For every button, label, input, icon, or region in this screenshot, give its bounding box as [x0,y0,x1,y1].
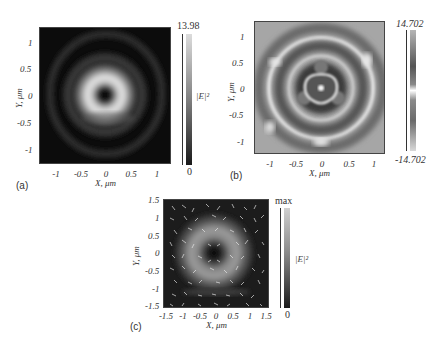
xtick-c-5: 1 [248,312,253,321]
panel-label-a: (a) [16,181,28,191]
ytick-c-5: -1 [152,285,160,294]
xtick-c-4: 0.5 [227,312,238,321]
xtick-a-1: -0.5 [74,170,88,179]
ytick-b-4: -1 [237,138,245,147]
colorbar-c-axis [280,208,281,308]
colorbar-c [284,208,290,308]
colorbar-c-min: 0 [285,310,290,320]
xtick-b-4: 1 [372,160,377,169]
xtick-c-6: 1.5 [260,312,271,321]
xtick-a-4: 1 [155,170,160,179]
colorbar-a-axis [182,34,183,165]
xtick-c-2: -0.5 [193,312,207,321]
ytick-c-1: 1 [155,214,160,223]
xlabel-b: X, μm [309,169,330,178]
colorbar-b-min: -14.702 [395,155,426,165]
colorbar-b-max: 14.702 [396,19,424,29]
heatmap-b [254,21,385,154]
ytick-a-1: 0.5 [20,65,31,74]
colorbar-b-axis [406,30,407,151]
ytick-b-0: 1 [240,33,245,42]
xtick-a-0: -1 [52,170,60,179]
ytick-c-3: 0 [155,249,160,258]
panel-label-b: (b) [230,171,242,181]
xtick-c-1: -1 [179,312,187,321]
colorbar-a [186,34,192,165]
ytick-a-0: 1 [28,39,33,48]
ytick-c-0: 1.5 [148,196,159,205]
heatmap-a [39,27,171,164]
ytick-b-1: 0.5 [232,59,243,68]
ytick-a-4: -1 [25,146,33,155]
xtick-b-1: -0.5 [289,160,303,169]
colorbar-a-quantity: |E|² [196,92,209,101]
heatmap-c [163,199,269,308]
colorbar-a-min: 0 [187,167,192,177]
ytick-a-3: -0.5 [17,119,31,128]
colorbar-c-quantity: |E|² [295,255,308,264]
xtick-b-0: -1 [266,160,274,169]
ytick-c-2: 0.5 [148,232,159,241]
ytick-b-2: 0 [240,85,245,94]
ylabel-c: Y, μm [132,246,141,266]
xtick-b-3: 0.5 [343,160,354,169]
ylabel-a: Y, μm [15,88,24,108]
ytick-c-6: -1.5 [145,302,159,311]
panel-label-c: (c) [130,322,142,332]
ytick-b-3: -0.5 [229,111,243,120]
xtick-c-0: -1.5 [159,312,173,321]
xtick-a-3: 0.5 [125,170,136,179]
colorbar-a-max: 13.98 [177,21,200,31]
xlabel-a: X, μm [95,179,116,188]
colorbar-c-max: max [275,196,292,206]
ylabel-b: Y, μm [227,82,236,102]
xlabel-c: X, μm [206,321,227,330]
colorbar-b [410,30,416,151]
ytick-a-2: 0 [28,92,33,101]
ytick-c-4: -0.5 [145,267,159,276]
